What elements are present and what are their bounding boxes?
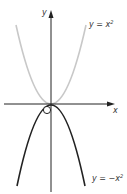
upper-curve-exponent: 2 xyxy=(110,19,113,25)
y-axis-arrow-icon xyxy=(49,10,54,18)
origin-marker-icon xyxy=(43,106,50,113)
upper-curve-equation: y = x xyxy=(89,20,110,29)
lower-curve-equation: y = −x xyxy=(92,174,120,183)
upper-curve-label: y = x2 xyxy=(89,21,113,29)
graph-canvas xyxy=(0,0,127,194)
x-axis-label: x xyxy=(113,107,118,115)
y-axis-label: y xyxy=(42,9,47,17)
lower-curve-label: y = −x2 xyxy=(92,175,123,183)
lower-curve-exponent: 2 xyxy=(120,173,123,179)
